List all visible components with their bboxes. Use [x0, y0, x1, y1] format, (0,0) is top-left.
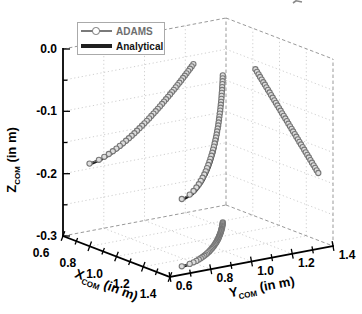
plot-canvas: 0.0-0.1-0.2-0.30.60.81.01.21.40.60.81.01… — [0, 0, 362, 314]
grid-floor-y — [185, 213, 292, 254]
y-tick-label: 1.2 — [298, 256, 315, 270]
analytical-line-left-wall-projection — [92, 64, 193, 163]
legend-item-analytical: Analytical — [81, 39, 161, 53]
adams-marker-main-3d-trajectory — [179, 196, 184, 201]
adams-marker-left-wall-projection — [102, 154, 107, 159]
legend-item-adams: ADAMS — [81, 24, 161, 38]
curve-left-wall-projection — [87, 62, 196, 167]
grid-wall-left-z — [63, 80, 226, 111]
cropped-caption-artifact — [293, 1, 302, 3]
adams-marker-floor-projection — [187, 261, 192, 266]
grid-wall-right-z — [226, 174, 333, 215]
adams-marker-main-3d-trajectory — [187, 192, 192, 197]
adams-marker-left-wall-projection — [96, 157, 101, 162]
edge-floor-back — [226, 205, 333, 246]
z-axis-unit: (in m) — [4, 127, 19, 166]
curve-floor-projection — [179, 220, 225, 269]
z-tick-label: -0.1 — [36, 104, 57, 118]
curve-right-wall-projection — [253, 67, 321, 176]
y-tick — [332, 241, 334, 251]
y-tick — [231, 262, 232, 269]
z-axis-symbol: Z — [4, 185, 19, 193]
y-tick-label: 0.8 — [216, 271, 233, 285]
z-tick-label: 0.0 — [40, 42, 57, 56]
analytical-line-swatch-icon — [81, 41, 112, 51]
y-tick-label: 1.0 — [257, 264, 274, 278]
adams-marker-left-wall-projection — [87, 161, 92, 166]
edge-top-right — [226, 18, 333, 59]
curve-main-3d-trajectory — [179, 73, 225, 202]
x-tick-label: 0.8 — [59, 256, 76, 270]
grid-wall-right-z — [226, 112, 333, 153]
y-tick-label: 0.6 — [176, 279, 193, 293]
adams-line-left-wall-projection — [90, 64, 194, 164]
y-tick-label: 1.4 — [339, 248, 356, 262]
z-axis-subscript: COM — [13, 166, 22, 185]
adams-circle-line-swatch-icon — [81, 26, 112, 36]
z-axis-label: ZCOM (in m) — [4, 127, 22, 193]
adams-marker-right-wall-projection — [316, 170, 321, 175]
com-trajectory-3d-figure: 0.0-0.1-0.2-0.30.60.81.01.21.40.60.81.01… — [0, 0, 362, 314]
y-tick — [312, 246, 313, 253]
legend-label-analytical: Analytical — [116, 41, 163, 52]
tick-marks — [61, 49, 334, 282]
adams-marker-floor-projection — [179, 264, 184, 269]
grid-lines — [63, 26, 333, 269]
x-tick-label: 1.4 — [140, 287, 157, 301]
y-tick — [190, 270, 191, 277]
y-tick — [271, 254, 272, 261]
legend-label-adams: ADAMS — [116, 26, 153, 37]
grid-floor-x — [90, 215, 253, 246]
y-tick — [251, 257, 253, 267]
grid-floor-y — [145, 221, 252, 262]
z-tick-label: -0.2 — [36, 167, 57, 181]
legend: ADAMS Analytical — [77, 22, 165, 55]
x-tick-label: 0.6 — [33, 246, 50, 260]
z-tick-label: -0.3 — [36, 229, 57, 243]
grid-floor-x — [143, 236, 306, 267]
